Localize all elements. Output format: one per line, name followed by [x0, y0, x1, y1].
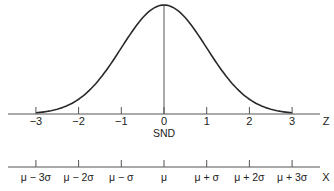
z-tick-label: 3: [289, 115, 295, 127]
z-tick-label: 2: [246, 115, 252, 127]
normal-distribution-figure: −3−2−10123 Z SND μ − 3σμ − 2σμ − σμμ + σ…: [0, 0, 334, 191]
z-tick-label: −1: [115, 115, 128, 127]
x-tick-label: μ + 2σ: [234, 171, 265, 183]
normal-curve-chart: −3−2−10123 Z SND μ − 3σμ − 2σμ − σμμ + σ…: [0, 0, 334, 191]
x-tick-label: μ − σ: [109, 171, 134, 183]
z-axis-ticks: −3−2−10123: [30, 107, 296, 127]
x-tick-label: μ − 2σ: [63, 171, 94, 183]
x-tick-label: μ + σ: [194, 171, 219, 183]
x-tick-label: μ − 3σ: [21, 171, 52, 183]
x-axis-end-label: X: [322, 171, 330, 183]
z-tick-label: −2: [72, 115, 85, 127]
x-axis-ticks: μ − 3σμ − 2σμ − σμμ + σμ + 2σμ + 3σ: [21, 160, 308, 183]
z-axis-end-label: Z: [323, 115, 330, 127]
z-axis-title: SND: [153, 127, 176, 139]
z-tick-label: 1: [204, 115, 210, 127]
x-tick-label: μ: [161, 171, 167, 183]
x-tick-label: μ + 3σ: [277, 171, 308, 183]
z-tick-label: 0: [161, 115, 167, 127]
z-tick-label: −3: [30, 115, 43, 127]
